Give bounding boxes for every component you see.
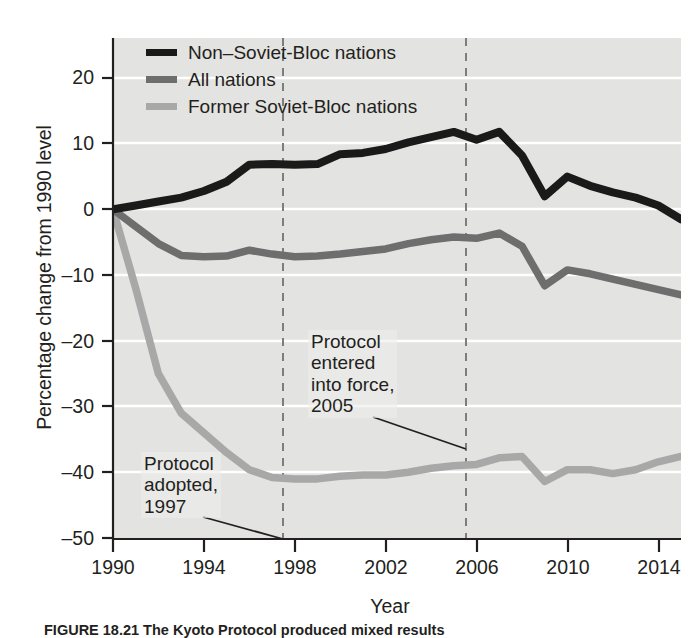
chart-legend: Non–Soviet-Bloc nations All nations Form… — [146, 40, 417, 121]
legend-item-former-soviet-bloc-nations[interactable]: Former Soviet-Bloc nations — [146, 94, 417, 118]
legend-item-all-nations[interactable]: All nations — [146, 67, 417, 91]
annotation-protocol-adopted-line-2: adopted, — [144, 474, 218, 495]
legend-label-non-soviet-bloc-nations: Non–Soviet-Bloc nations — [188, 43, 396, 62]
annotation-protocol-adopted: Protocol adopted, 1997 — [141, 452, 221, 518]
legend-label-former-soviet-bloc-nations: Former Soviet-Bloc nations — [188, 97, 417, 116]
x-tick-label-1998: 1998 — [260, 558, 330, 578]
y-axis-ticks — [102, 78, 113, 538]
y-tick-label-neg50: –50 — [36, 529, 94, 549]
legend-swatch-light-grey — [146, 103, 177, 110]
annotation-protocol-adopted-line-3: 1997 — [144, 496, 218, 517]
y-axis-title: Percentage change from 1990 level — [33, 38, 56, 518]
x-tick-label-1994: 1994 — [169, 558, 239, 578]
x-tick-label-2010: 2010 — [533, 558, 603, 578]
annotation-protocol-entered-force-line-4: 2005 — [311, 395, 394, 416]
annotation-protocol-adopted-line-1: Protocol — [144, 453, 218, 474]
annotation-protocol-entered-force-line-1: Protocol — [311, 331, 394, 352]
x-tick-label-1990: 1990 — [78, 558, 148, 578]
annotation-protocol-entered-into-force: Protocol entered into force, 2005 — [308, 330, 397, 418]
annotation-protocol-entered-force-line-2: entered — [311, 352, 394, 373]
x-axis-title: Year — [100, 595, 680, 618]
x-tick-label-2014: 2014 — [624, 558, 689, 578]
legend-swatch-grey — [146, 76, 177, 83]
annotation-protocol-entered-force-line-3: into force, — [311, 374, 394, 395]
x-tick-label-2006: 2006 — [442, 558, 512, 578]
figure-container: 20 10 0 –10 –20 –30 –40 –50 1990 1994 19… — [0, 0, 689, 638]
legend-swatch-black — [146, 49, 177, 56]
figure-caption: FIGURE 18.21 The Kyoto Protocol produced… — [44, 622, 654, 638]
x-axis-ticks — [113, 539, 659, 552]
legend-label-all-nations: All nations — [188, 70, 276, 89]
x-tick-label-2002: 2002 — [351, 558, 421, 578]
legend-item-non-soviet-bloc-nations[interactable]: Non–Soviet-Bloc nations — [146, 40, 417, 64]
